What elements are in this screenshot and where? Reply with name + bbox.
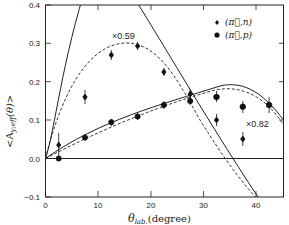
series-pi-p <box>56 91 272 161</box>
legend-label-p: (π⃗,p) <box>225 30 252 40</box>
x-tick-label: 10 <box>94 201 103 210</box>
x-tick-label: 20 <box>147 201 156 210</box>
legend-diamond-icon <box>215 20 219 25</box>
y-tick-label: 0.2 <box>29 78 41 87</box>
x-axis-title: θlab.(degree) <box>128 212 191 225</box>
y-tick-label: 0.3 <box>29 39 41 48</box>
scale-annotation-059: ×0.59 <box>112 31 135 41</box>
y-tick-label: 0.1 <box>29 116 41 125</box>
x-tick-label: 0 <box>43 201 48 210</box>
legend-label-n: (π⃗,n) <box>225 17 252 27</box>
y-tick-label: 0.4 <box>29 1 41 10</box>
y-axis-title: <Ay;eff(θ)> <box>4 95 17 148</box>
legend: (π⃗,n) (π⃗,p) <box>214 17 252 40</box>
scale-annotation-082: ×0.82 <box>246 119 269 129</box>
x-tick-label: 30 <box>199 201 208 210</box>
x-tick-label: 40 <box>252 201 261 210</box>
y-tick-label: 0.0 <box>29 155 41 164</box>
legend-circle-icon <box>214 32 219 37</box>
chart: 0.4 0.3 0.2 0.1 0.0 −0.1 0 10 20 30 40 θ… <box>0 0 289 225</box>
theory-curve-n-dashed <box>46 43 259 200</box>
y-tick-label: −0.1 <box>24 193 40 202</box>
